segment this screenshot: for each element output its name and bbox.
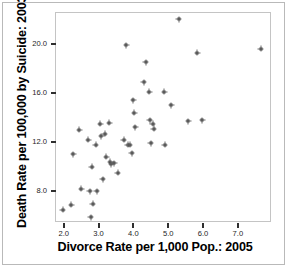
x-tick-label: 4.0 xyxy=(123,230,143,238)
x-tick-label: 5.0 xyxy=(158,230,178,238)
y-tick-label: 12.0 xyxy=(21,138,47,146)
x-axis-title: Divorce Rate per 1,000 Pop.: 2005 xyxy=(30,240,280,254)
y-tick-mark xyxy=(51,141,56,143)
y-tick-label: 8.0 xyxy=(21,187,47,195)
x-tick-label: 3.0 xyxy=(89,230,109,238)
y-tick-label: 20.0 xyxy=(21,40,47,48)
y-tick-mark xyxy=(51,92,56,94)
x-tick-label: 7.0 xyxy=(228,230,248,238)
x-tick-mark xyxy=(98,223,100,228)
x-tick-mark xyxy=(237,223,239,228)
x-tick-mark xyxy=(167,223,169,228)
x-tick-mark xyxy=(202,223,204,228)
y-tick-mark xyxy=(51,190,56,192)
plot-area-frame xyxy=(55,12,271,222)
x-tick-label: 6.0 xyxy=(193,230,213,238)
y-tick-mark xyxy=(51,43,56,45)
scatter-plot-figure: Death Rate per 100,000 by Suicide: 2003 … xyxy=(0,0,287,267)
y-tick-label: 16.0 xyxy=(21,89,47,97)
x-tick-label: 2.0 xyxy=(54,230,74,238)
x-tick-mark xyxy=(63,223,65,228)
x-tick-mark xyxy=(132,223,134,228)
